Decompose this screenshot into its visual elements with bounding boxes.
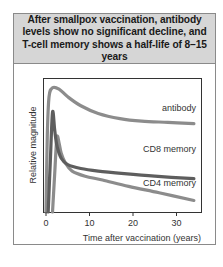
label-cd8-memory: CD8 memory <box>143 144 197 154</box>
y-axis-label: Relative magnitude <box>28 106 38 183</box>
x-axis-label: Time after vaccination (years) <box>83 233 201 243</box>
x-tick-label: 30 <box>171 218 181 228</box>
x-tick-label: 0 <box>43 218 48 228</box>
x-tick-label: 20 <box>128 218 138 228</box>
x-axis-ticks: 0102030 <box>43 212 181 228</box>
x-tick-label: 10 <box>84 218 94 228</box>
label-cd4-memory: CD4 memory <box>143 178 197 188</box>
label-antibody: antibody <box>162 103 197 113</box>
chart-area: 0102030 antibody CD8 memory CD4 memory R… <box>0 0 223 267</box>
